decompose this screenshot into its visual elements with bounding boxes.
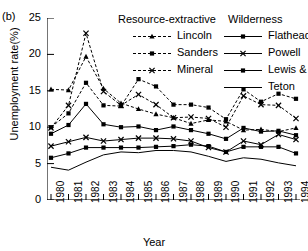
legend-line-sample [131,64,173,77]
legend-line-sample [222,81,264,94]
series-teton [51,150,296,170]
y-tick-label: 15 [19,84,41,96]
legend-line-sample [222,47,264,60]
series-powell [48,132,298,155]
legend-item-label: Teton [268,80,295,92]
y-tick-label: 5 [19,157,41,169]
series-canvas [47,18,300,200]
legend-line-sample [222,64,264,77]
x-tick-label: 1994 [300,181,308,203]
y-tick-label: 0 [19,193,41,205]
y-tick-label: 10 [19,120,41,132]
series-lewis-clark [49,143,298,160]
y-tick-label: 25 [19,11,41,23]
legend-group-title-wilderness: Wilderness [228,13,282,25]
legend-line-sample [131,47,173,60]
legend-item-label: Lincoln [177,29,212,41]
series-flathead [49,102,298,141]
legend-item-label: Powell [268,46,300,58]
y-tick-label: 20 [19,47,41,59]
legend-line-sample [131,30,173,43]
legend-item-label: Lewis & Clark [268,63,308,75]
plot-area [47,18,300,200]
legend-item-label: Sanders [177,46,218,58]
legend-item-label: Mineral [177,63,213,75]
legend-item-label: Flathead [268,29,308,41]
chart-figure: (b) Unemployment rate(%) Year 0510152025… [0,0,308,251]
legend-line-sample [222,30,264,43]
x-axis-label: Year [0,236,308,248]
legend-group-title-resource-extractive: Resource-extractive [118,13,216,25]
